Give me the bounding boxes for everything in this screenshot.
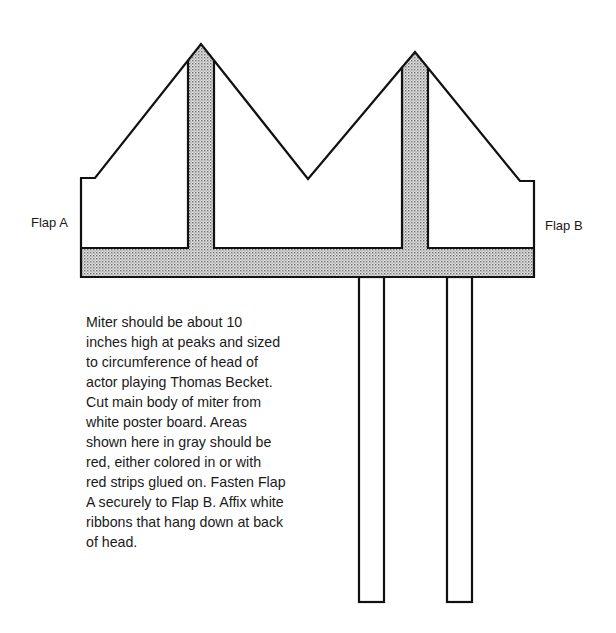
instruction-line: ribbons that hang down at back [86,512,336,532]
instruction-line: shown here in gray should be [86,432,336,452]
miter-body [81,44,534,277]
instruction-line: A securely to Flap B. Affix white [86,492,336,512]
vertical-band-left [188,44,214,248]
base-band [81,248,534,277]
ribbon-right [447,277,472,602]
instruction-line: white poster board. Areas [86,412,336,432]
instruction-line: Cut main body of miter from [86,392,336,412]
flap-a-label: Flap A [31,215,68,230]
vertical-band-right [402,52,428,248]
instruction-line: to circumference of head of [86,352,336,372]
instruction-line: red strips glued on. Fasten Flap [86,472,336,492]
instruction-line: Miter should be about 10 [86,312,336,332]
instruction-line: of head. [86,532,336,552]
ribbons [359,277,472,602]
instructions-text: Miter should be about 10 inches high at … [86,312,336,552]
flap-b-label: Flap B [545,218,583,233]
instruction-line: inches high at peaks and sized [86,332,336,352]
instruction-line: red, either colored in or with [86,452,336,472]
ribbon-left [359,277,384,602]
instruction-line: actor playing Thomas Becket. [86,372,336,392]
